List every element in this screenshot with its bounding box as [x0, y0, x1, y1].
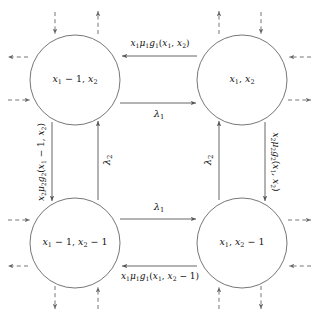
node-label-tl: x1 − 1, x2 [52, 74, 97, 85]
edge-label-left-up-arrow: λ2 [102, 155, 114, 166]
edge-label-right-up-arrow: λ2 [203, 155, 215, 166]
node-label-bl: x1 − 1, x2 − 1 [42, 237, 107, 248]
diagram-canvas: x1 − 1, x2 x1, x2 x1 − 1, x2 − 1 x1, x2 … [0, 0, 319, 319]
edge-label-top-right-arrow: λ1 [154, 109, 165, 121]
edge-label-left-down-arrow: x2μ2g2(x1 − 1, x2) [37, 123, 47, 201]
node-label-br: x1, x2 − 1 [219, 237, 264, 248]
edge-label-right-down-arrow: x2μ2g2(x1, x2) [270, 132, 280, 191]
edge-label-bottom-left-arrow: x1μ1g1(x1, x2 − 1) [121, 272, 199, 282]
edge-label-top-left-arrow: x1μ1g1(x1, x2) [130, 39, 189, 49]
node-label-tr: x1, x2 [230, 74, 255, 85]
edge-label-bottom-right-arrow: λ1 [154, 202, 165, 214]
